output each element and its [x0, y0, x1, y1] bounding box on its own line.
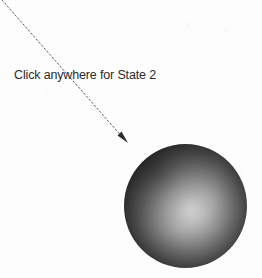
- sphere-shading-overlay: [124, 144, 247, 268]
- shaded-sphere[interactable]: [124, 144, 247, 268]
- figure-canvas[interactable]: Click anywhere for State 2: [0, 0, 262, 278]
- annotation-label: Click anywhere for State 2: [14, 68, 156, 83]
